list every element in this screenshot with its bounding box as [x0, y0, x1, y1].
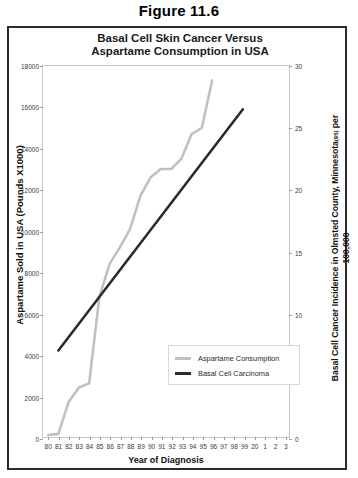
- x-axis-tick-mark: [286, 437, 287, 440]
- legend-item-aspartame-consumption: Aspartame Consumption: [175, 351, 293, 366]
- x-axis-tick-label: 83: [76, 443, 83, 450]
- x-axis-tick-label: 82: [65, 443, 72, 450]
- y-axis-right-title-main: Basal Cell Cancer Incidence in Olmsted C…: [330, 141, 340, 381]
- x-axis-tick-label: 86: [107, 443, 114, 450]
- x-axis-tick-mark: [162, 437, 163, 440]
- chart-legend: Aspartame Consumption Basal Cell Carcino…: [168, 345, 300, 385]
- x-axis-tick-label: 94: [189, 443, 196, 450]
- legend-swatch-aspartame: [175, 357, 191, 360]
- y-axis-right-title: Basal Cell Cancer Incidence in Olmsted C…: [330, 58, 351, 438]
- x-axis-tick-label: 95: [200, 443, 207, 450]
- y-axis-right-title-superscript: (95): [333, 131, 339, 142]
- chart-title-line-1: Basal Cell Skin Cancer Versus: [30, 32, 330, 45]
- x-axis-tick-label: 93: [179, 443, 186, 450]
- y-axis-left-tick-label: 18000: [21, 63, 39, 70]
- x-axis-tick-label: 20: [251, 443, 258, 450]
- x-axis-tick-mark: [193, 437, 194, 440]
- x-axis-tick-label: 99: [241, 443, 248, 450]
- y-axis-left-tick-mark: [40, 439, 43, 440]
- x-axis-tick-label: 85: [96, 443, 103, 450]
- x-axis-tick-label: 98: [231, 443, 238, 450]
- x-axis-tick-label: 88: [127, 443, 134, 450]
- x-axis-tick-mark: [90, 437, 91, 440]
- legend-label-aspartame: Aspartame Consumption: [198, 354, 279, 363]
- x-axis-tick-mark: [245, 437, 246, 440]
- y-axis-right-tick-label: 15: [295, 249, 302, 256]
- x-axis-tick-mark: [69, 437, 70, 440]
- x-axis-tick-label: 3: [284, 443, 288, 450]
- y-axis-right-tick-label: 20: [295, 187, 302, 194]
- x-axis-tick-mark: [203, 437, 204, 440]
- chart-page: Figure 11.6 Basal Cell Skin Cancer Versu…: [0, 0, 358, 478]
- x-axis-title: Year of Diagnosis: [42, 455, 290, 465]
- x-axis-tick-label: 97: [220, 443, 227, 450]
- x-axis-tick-label: 87: [117, 443, 124, 450]
- x-axis-tick-label: 1: [263, 443, 267, 450]
- y-axis-right-tick-mark: [289, 66, 292, 67]
- x-axis-tick-label: 84: [86, 443, 93, 450]
- x-axis-tick-mark: [255, 437, 256, 440]
- y-axis-right-tick-mark: [289, 253, 292, 254]
- y-axis-right-title-tail: per: [330, 115, 340, 131]
- y-axis-left-tick-label: 10000: [21, 228, 39, 235]
- y-axis-left-tick-label: 14000: [21, 145, 39, 152]
- y-axis-left-tick-label: 2000: [25, 394, 39, 401]
- x-axis-tick-mark: [79, 437, 80, 440]
- x-axis-tick-mark: [131, 437, 132, 440]
- y-axis-left-tick-label: 12000: [21, 187, 39, 194]
- x-axis-tick-label: 80: [45, 443, 52, 450]
- y-axis-right-tick-label: 10: [295, 311, 302, 318]
- x-axis-tick-mark: [100, 437, 101, 440]
- x-axis-tick-mark: [172, 437, 173, 440]
- x-axis-tick-mark: [234, 437, 235, 440]
- y-axis-left-tick-label: 6000: [25, 311, 39, 318]
- x-axis-tick-mark: [152, 437, 153, 440]
- x-axis-tick-label: 81: [55, 443, 62, 450]
- x-axis-tick-label: 91: [158, 443, 165, 450]
- legend-swatch-carcinoma: [175, 372, 191, 375]
- x-axis-tick-mark: [224, 437, 225, 440]
- chart-title: Basal Cell Skin Cancer Versus Aspartame …: [30, 32, 330, 58]
- x-axis-tick-mark: [121, 437, 122, 440]
- y-axis-right-title-line2: 100,000: [341, 58, 351, 438]
- figure-caption: Figure 11.6: [0, 2, 358, 19]
- y-axis-left-tick-label: 8000: [25, 270, 39, 277]
- x-axis-tick-mark: [214, 437, 215, 440]
- series-line-basal-cell-carcinoma: [58, 109, 243, 350]
- x-axis-tick-mark: [141, 437, 142, 440]
- chart-title-line-2: Aspartame Consumption in USA: [30, 45, 330, 58]
- x-axis-tick-mark: [265, 437, 266, 440]
- x-axis-tick-mark: [276, 437, 277, 440]
- y-axis-right-tick-mark: [289, 190, 292, 191]
- y-axis-right-tick-label: 25: [295, 125, 302, 132]
- x-axis-tick-label: 90: [148, 443, 155, 450]
- x-axis-tick-label: 96: [210, 443, 217, 450]
- y-axis-left-tick-label: 0: [35, 436, 39, 443]
- legend-item-basal-cell-carcinoma: Basal Cell Carcinoma: [175, 366, 293, 381]
- legend-label-carcinoma: Basal Cell Carcinoma: [198, 369, 269, 378]
- y-axis-right-tick-mark: [289, 128, 292, 129]
- x-axis-tick-label: 92: [169, 443, 176, 450]
- y-axis-right-tick-mark: [289, 315, 292, 316]
- y-axis-right-tick-label: 30: [295, 63, 302, 70]
- y-axis-right-tick-label: 0: [295, 436, 299, 443]
- y-axis-left-tick-label: 4000: [25, 353, 39, 360]
- x-axis-tick-label: 2: [274, 443, 278, 450]
- y-axis-left-tick-label: 16000: [21, 104, 39, 111]
- x-axis-tick-mark: [110, 437, 111, 440]
- y-axis-right-tick-mark: [289, 439, 292, 440]
- x-axis-tick-mark: [48, 437, 49, 440]
- x-axis-tick-mark: [59, 437, 60, 440]
- x-axis-tick-mark: [183, 437, 184, 440]
- x-axis-tick-label: 89: [138, 443, 145, 450]
